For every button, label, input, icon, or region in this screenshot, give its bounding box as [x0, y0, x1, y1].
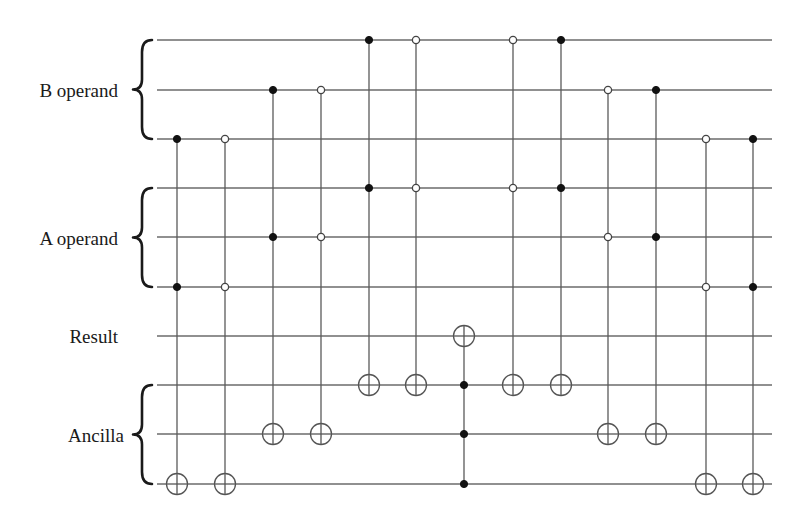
- control-filled-icon: [173, 283, 180, 290]
- ancilla-label: Ancilla: [68, 425, 124, 446]
- circuit-gates: [167, 36, 764, 494]
- gate-0: [167, 135, 188, 494]
- gate-12: [743, 135, 764, 494]
- control-open-icon: [221, 283, 228, 290]
- a-operand-label: A operand: [39, 228, 118, 249]
- gate-6: [454, 326, 475, 488]
- control-open-icon: [412, 36, 419, 43]
- gate-9: [598, 86, 619, 444]
- control-filled-icon: [365, 184, 372, 191]
- control-filled-icon: [557, 36, 564, 43]
- quantum-circuit-diagram: B operandA operandResultAncilla: [0, 0, 799, 518]
- control-open-icon: [317, 86, 324, 93]
- control-open-icon: [604, 86, 611, 93]
- control-filled-icon: [652, 233, 659, 240]
- control-filled-icon: [173, 135, 180, 142]
- control-open-icon: [509, 184, 516, 191]
- control-filled-icon: [749, 283, 756, 290]
- control-filled-icon: [460, 381, 467, 388]
- gate-2: [263, 86, 284, 444]
- result-label: Result: [69, 326, 118, 347]
- gate-1: [215, 135, 236, 494]
- ancilla-brace: [133, 385, 152, 484]
- b-operand-brace: [133, 40, 152, 139]
- register-braces: [133, 40, 152, 484]
- register-labels: B operandA operandResultAncilla: [39, 80, 124, 446]
- control-open-icon: [702, 135, 709, 142]
- control-filled-icon: [269, 233, 276, 240]
- control-filled-icon: [269, 86, 276, 93]
- control-open-icon: [317, 233, 324, 240]
- control-open-icon: [509, 36, 516, 43]
- control-filled-icon: [365, 36, 372, 43]
- gate-11: [696, 135, 717, 494]
- gate-10: [646, 86, 667, 444]
- control-open-icon: [221, 135, 228, 142]
- gate-3: [311, 86, 332, 444]
- control-filled-icon: [460, 430, 467, 437]
- control-filled-icon: [557, 184, 564, 191]
- control-open-icon: [604, 233, 611, 240]
- control-filled-icon: [652, 86, 659, 93]
- a-operand-brace: [133, 188, 152, 287]
- control-filled-icon: [460, 480, 467, 487]
- control-filled-icon: [749, 135, 756, 142]
- b-operand-label: B operand: [39, 80, 118, 101]
- control-open-icon: [412, 184, 419, 191]
- control-open-icon: [702, 283, 709, 290]
